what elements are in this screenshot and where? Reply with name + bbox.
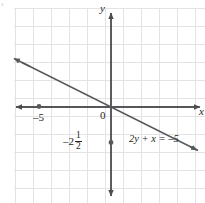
x-intercept-label: –5 [33,112,44,123]
fraction-numerator: 1 [75,131,82,141]
y-intercept-whole-part: –2 [63,136,74,147]
y-intercept-fraction: 1 2 [75,131,82,152]
coordinate-plane [0,0,205,203]
fraction-denominator: 2 [75,142,82,152]
x-intercept-point [37,104,42,109]
equation-label: 2y + x = –5 [129,134,179,145]
y-axis-label: y [100,3,105,14]
x-axis-label: x [199,106,204,117]
y-intercept-point [109,140,114,145]
y-intercept-label: –2 1 2 [63,131,82,152]
origin-label: 0 [100,110,106,121]
graph-figure: x [0,0,205,203]
